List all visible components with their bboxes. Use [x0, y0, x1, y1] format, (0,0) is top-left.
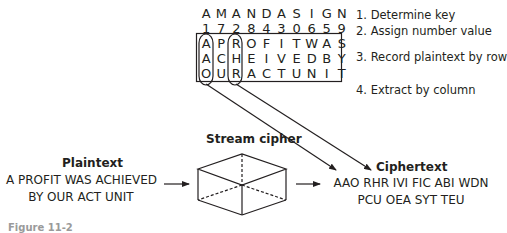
step-1-label: 1. Determine key — [356, 8, 455, 22]
grid-cell: B — [320, 51, 334, 66]
grid-cell: P — [214, 36, 228, 51]
grid-row-1: A P R O F I T W A S — [199, 36, 349, 51]
grid-cell: C — [214, 51, 228, 66]
grid-cell: F — [259, 36, 273, 51]
grid-cell: A — [199, 36, 213, 51]
step-4-label: 4. Extract by column — [356, 83, 476, 97]
key-letter: A — [199, 6, 213, 21]
key-letter: A — [274, 6, 288, 21]
grid-cell: A — [199, 51, 213, 66]
grid-cell: N — [304, 66, 318, 81]
ciphertext-label: Ciphertext — [376, 160, 447, 174]
column-2-extract-line — [236, 84, 371, 170]
key-number: 7 — [214, 21, 228, 36]
key-number: 2 — [229, 21, 243, 36]
grid-cell: A — [320, 36, 334, 51]
grid-row-3: O U R A C T U N I T — [199, 66, 349, 81]
grid-cell: I — [259, 51, 273, 66]
grid-row-2: A C H E I V E D B Y — [199, 51, 349, 66]
grid-cell: H — [229, 51, 243, 66]
key-number: 0 — [289, 21, 303, 36]
grid-cell: Y — [335, 51, 349, 66]
grid-cell: U — [289, 66, 303, 81]
grid-cell: I — [320, 66, 334, 81]
ciphertext-block: AAO RHR IVI FIC ABI WDN PCU OEA SYT TEU — [326, 175, 496, 209]
grid-cell: U — [214, 66, 228, 81]
grid-cell: E — [244, 51, 258, 66]
figure-caption: Figure 11-2 — [8, 222, 73, 233]
grid-cell: C — [259, 66, 273, 81]
stream-cipher-label: Stream cipher — [206, 132, 302, 146]
key-letter: S — [289, 6, 303, 21]
key-number: 8 — [244, 21, 258, 36]
grid-cell: O — [244, 36, 258, 51]
step-2-label: 2. Assign number value — [356, 24, 492, 38]
column-1-extract-line — [206, 84, 336, 170]
key-letter: A — [229, 6, 243, 21]
grid-cell: E — [289, 51, 303, 66]
grid-cell: I — [274, 36, 288, 51]
number-row: 1 7 2 8 4 3 0 6 5 9 — [199, 21, 349, 36]
grid-cell: S — [335, 36, 349, 51]
key-number: 4 — [259, 21, 273, 36]
grid-cell: R — [229, 36, 243, 51]
plaintext-line-1: A PROFIT WAS ACHIEVED — [6, 172, 156, 189]
grid-cell: T — [274, 66, 288, 81]
step-3-label: 3. Record plaintext by row — [356, 50, 507, 64]
key-letter: I — [304, 6, 318, 21]
ciphertext-line-1: AAO RHR IVI FIC ABI WDN — [326, 175, 496, 192]
grid-cell: R — [229, 66, 243, 81]
plaintext-line-2: BY OUR ACT UNIT — [6, 189, 156, 206]
stream-cipher-cube-icon — [198, 154, 286, 215]
key-letter: N — [244, 6, 258, 21]
key-letter: G — [320, 6, 334, 21]
grid-cell: A — [244, 66, 258, 81]
grid-cell: T — [335, 66, 349, 81]
key-number: 1 — [199, 21, 213, 36]
plaintext-label: Plaintext — [62, 156, 123, 170]
grid-cell: O — [199, 66, 213, 81]
key-number: 6 — [304, 21, 318, 36]
ciphertext-line-2: PCU OEA SYT TEU — [326, 192, 496, 209]
key-row: A M A N D A S I G N — [199, 6, 349, 21]
key-number: 9 — [335, 21, 349, 36]
grid-cell: T — [289, 36, 303, 51]
grid-cell: D — [304, 51, 318, 66]
plaintext-block: A PROFIT WAS ACHIEVED BY OUR ACT UNIT — [6, 172, 156, 206]
key-number: 5 — [320, 21, 334, 36]
grid-cell: V — [274, 51, 288, 66]
grid-cell: W — [304, 36, 318, 51]
key-number: 3 — [274, 21, 288, 36]
key-letter: D — [259, 6, 273, 21]
key-letter: N — [335, 6, 349, 21]
key-letter: M — [214, 6, 228, 21]
